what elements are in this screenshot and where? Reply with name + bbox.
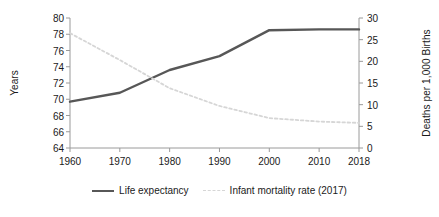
legend-item[interactable]: Life expectancy [92, 185, 189, 196]
legend-swatch-dashed-icon [203, 190, 225, 191]
legend-label: Life expectancy [119, 185, 189, 196]
series-layer [70, 29, 359, 122]
chart-container: Years Deaths per 1,000 Births 6466687072… [0, 0, 439, 217]
chart-legend: Life expectancyInfant mortality rate (20… [0, 185, 439, 196]
series-line [70, 33, 359, 123]
legend-label: Infant mortality rate (2017) [230, 185, 347, 196]
axis-tick-marks [66, 18, 363, 152]
axis-frame [70, 18, 359, 148]
series-line [70, 29, 359, 101]
legend-swatch-solid-icon [92, 190, 114, 192]
legend-item[interactable]: Infant mortality rate (2017) [203, 185, 347, 196]
